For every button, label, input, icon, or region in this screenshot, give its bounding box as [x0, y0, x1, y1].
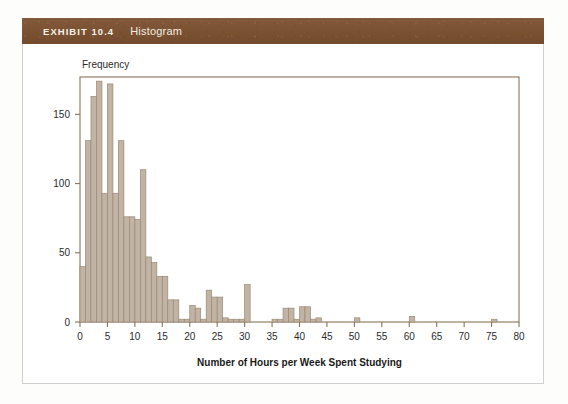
- histogram-bar: [305, 307, 310, 322]
- x-tick-label: 55: [376, 331, 388, 342]
- histogram-bar: [168, 300, 173, 322]
- histogram-bar: [354, 318, 359, 322]
- x-tick-label: 0: [77, 331, 83, 342]
- histogram-bar: [146, 257, 151, 322]
- x-tick-label: 20: [184, 331, 196, 342]
- histogram-bar: [294, 319, 299, 322]
- histogram-bar: [409, 316, 414, 322]
- histogram-bar: [289, 308, 294, 322]
- histogram-bar: [272, 319, 277, 322]
- x-axis-title: Number of Hours per Week Spent Studying: [197, 357, 402, 368]
- x-tick-label: 70: [459, 331, 471, 342]
- histogram-bar: [80, 267, 85, 322]
- y-tick-label: 0: [64, 317, 70, 328]
- histogram-bar: [113, 193, 118, 322]
- x-tick-label: 10: [129, 331, 141, 342]
- histogram-bar: [179, 319, 184, 322]
- histogram-bar: [239, 319, 244, 322]
- histogram-bar: [492, 319, 497, 322]
- histogram-bar: [212, 297, 217, 322]
- histogram-bar: [201, 319, 206, 322]
- histogram-bar: [278, 319, 283, 322]
- histogram-svg: Frequency0510152025303540455055606570758…: [22, 44, 544, 384]
- histogram-bar: [91, 96, 96, 322]
- exhibit-header-band: EXHIBIT 10.4 Histogram: [22, 18, 544, 44]
- histogram-bar: [173, 300, 178, 322]
- x-tick-label: 50: [349, 331, 361, 342]
- histogram-bar: [162, 276, 167, 322]
- histogram-bar: [310, 319, 315, 322]
- x-tick-label: 5: [105, 331, 111, 342]
- x-tick-label: 30: [239, 331, 251, 342]
- x-tick-label: 65: [431, 331, 443, 342]
- bars-group: [80, 81, 497, 322]
- histogram-bar: [140, 170, 145, 322]
- histogram-bar: [234, 319, 239, 322]
- histogram-bar: [85, 141, 90, 322]
- histogram-bar: [245, 285, 250, 322]
- x-tick-label: 75: [486, 331, 498, 342]
- histogram-bar: [228, 319, 233, 322]
- histogram-bar: [157, 276, 162, 322]
- x-tick-label: 40: [294, 331, 306, 342]
- histogram-bar: [283, 308, 288, 322]
- histogram-bar: [102, 193, 107, 322]
- exhibit-title: Histogram: [130, 25, 182, 37]
- y-tick-label: 50: [59, 247, 71, 258]
- histogram-bar: [96, 81, 101, 322]
- y-tick-label: 150: [53, 109, 70, 120]
- x-tick-label: 25: [212, 331, 224, 342]
- histogram-bar: [151, 262, 156, 322]
- histogram-bar: [184, 319, 189, 322]
- histogram-bar: [316, 318, 321, 322]
- x-tick-label: 45: [321, 331, 333, 342]
- histogram-bar: [135, 220, 140, 322]
- histogram-bar: [195, 308, 200, 322]
- histogram-bar: [129, 217, 134, 322]
- exhibit-number: EXHIBIT 10.4: [43, 26, 114, 37]
- histogram-bar: [124, 217, 129, 322]
- x-tick-label: 15: [157, 331, 169, 342]
- histogram-bar: [217, 297, 222, 322]
- histogram-bar: [107, 84, 112, 322]
- x-tick-label: 80: [513, 331, 525, 342]
- histogram-bar: [300, 307, 305, 322]
- histogram-bar: [190, 305, 195, 322]
- histogram-bar: [118, 141, 123, 322]
- x-tick-label: 60: [404, 331, 416, 342]
- histogram-chart: Frequency0510152025303540455055606570758…: [22, 44, 544, 384]
- histogram-bar: [206, 290, 211, 322]
- x-tick-label: 35: [267, 331, 279, 342]
- y-tick-label: 100: [53, 178, 70, 189]
- histogram-bar: [223, 318, 228, 322]
- y-axis-caption: Frequency: [82, 59, 129, 70]
- exhibit-page: EXHIBIT 10.4 Histogram Frequency05101520…: [0, 0, 568, 404]
